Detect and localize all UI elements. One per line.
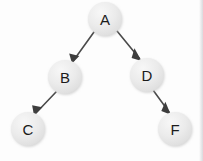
node-label-d: D xyxy=(142,67,153,84)
tree-node-c[interactable]: C xyxy=(11,112,45,146)
node-label-c: C xyxy=(23,121,34,138)
tree-node-b[interactable]: B xyxy=(48,60,82,94)
tree-node-d[interactable]: D xyxy=(130,58,164,92)
node-label-b: B xyxy=(60,69,70,86)
edge-d-to-f xyxy=(153,90,171,115)
node-label-f: F xyxy=(170,121,179,138)
edge-a-to-d xyxy=(117,31,142,61)
tree-node-f[interactable]: F xyxy=(158,112,192,146)
tree-diagram-svg: A B D C F xyxy=(0,0,203,161)
edge-b-to-c xyxy=(32,92,56,116)
tree-diagram-canvas: A B D C F xyxy=(0,0,203,161)
node-label-a: A xyxy=(100,11,110,28)
edge-a-to-b xyxy=(69,32,94,64)
node-group: A B D C F xyxy=(11,2,192,146)
tree-node-a[interactable]: A xyxy=(88,2,122,36)
